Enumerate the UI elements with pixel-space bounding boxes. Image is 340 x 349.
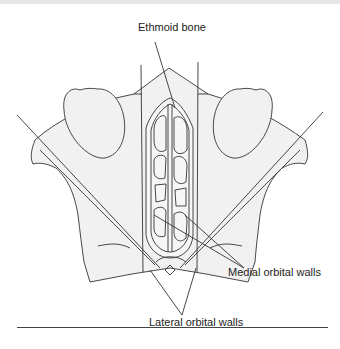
label-ethmoid-bone: Ethmoid bone: [138, 21, 206, 33]
skull-illustration: [0, 0, 340, 349]
bottom-rule: [17, 327, 328, 328]
orbital-walls-diagram: Ethmoid bone Medial orbital walls Latera…: [0, 0, 340, 349]
label-medial-orbital-walls: Medial orbital walls: [228, 266, 321, 278]
